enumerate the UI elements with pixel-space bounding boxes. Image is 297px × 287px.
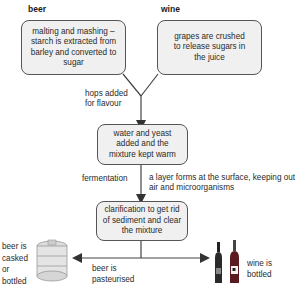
grapes-step-box: grapes are crushed to release sugars in …	[157, 20, 262, 75]
wine-header: wine	[161, 4, 180, 14]
wine-bottled-label: wine is bottled	[247, 258, 281, 280]
beer-pasteurised-label: beer is pasteurised	[92, 263, 142, 285]
wine-bottles-icon	[215, 240, 239, 283]
clarification-step-box: clarification to get rid of sediment and…	[96, 201, 188, 241]
beer-cask-icon	[37, 240, 67, 281]
surface-layer-label: a layer forms at the surface, keeping ou…	[149, 173, 297, 193]
beer-casked-label: beer is casked or bottled	[2, 241, 36, 287]
malting-step-box: malting and mashing – starch is extracte…	[21, 20, 126, 75]
hops-label: hops added for flavour	[85, 89, 137, 109]
water-yeast-step-box: water and yeast added and the mixture ke…	[97, 124, 188, 165]
fermentation-label: fermentation	[82, 174, 128, 184]
beer-header: beer	[28, 4, 46, 14]
